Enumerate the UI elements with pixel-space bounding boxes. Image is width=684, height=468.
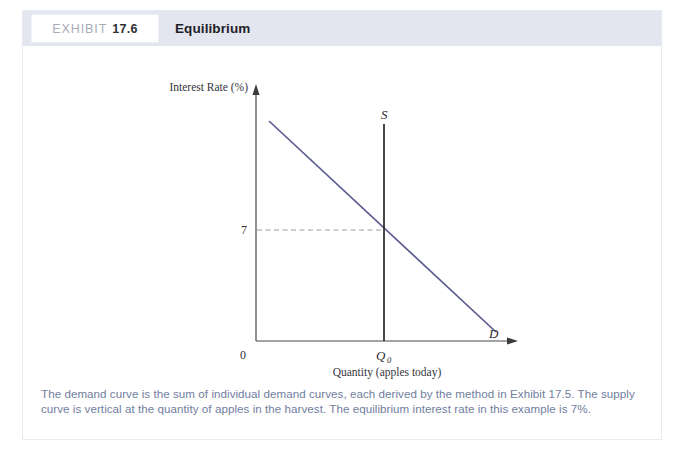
y-tick-label-7: 7 <box>241 223 247 237</box>
exhibit-caption: The demand curve is the sum of individua… <box>41 386 641 417</box>
exhibit-tag: EXHIBIT 17.6 <box>31 14 159 43</box>
exhibit-card: EXHIBIT 17.6 Equilibrium Interest Rate (… <box>22 10 662 440</box>
x-tick-label-q0: Q <box>376 348 386 363</box>
x-tick-label-q0-subscript: 0 <box>387 355 392 365</box>
chart-area: Interest Rate (%) S D 7 0 Q 0 Quantity (… <box>23 46 661 386</box>
exhibit-header-band: EXHIBIT 17.6 Equilibrium <box>23 11 661 46</box>
demand-curve-label: D <box>488 326 499 341</box>
demand-curve <box>269 121 496 332</box>
exhibit-title: Equilibrium <box>175 11 250 46</box>
exhibit-number: 17.6 <box>112 22 138 36</box>
y-axis-title: Interest Rate (%) <box>169 81 248 94</box>
exhibit-label: EXHIBIT <box>52 22 107 36</box>
x-axis-arrow-icon <box>507 338 518 345</box>
equilibrium-graph: Interest Rate (%) S D 7 0 Q 0 Quantity (… <box>23 46 663 386</box>
origin-label: 0 <box>240 348 246 362</box>
y-axis-arrow-icon <box>253 84 260 95</box>
x-axis-title: Quantity (apples today) <box>333 366 442 379</box>
supply-curve-label: S <box>381 107 388 122</box>
